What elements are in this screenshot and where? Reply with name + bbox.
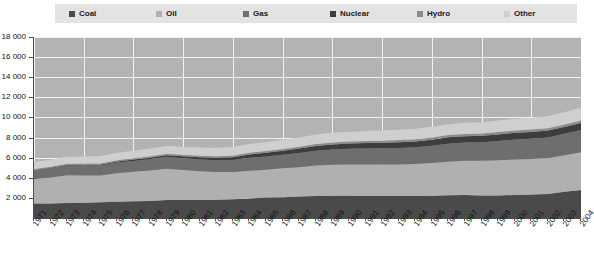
legend-item-label: Gas xyxy=(253,9,268,18)
legend-swatch-icon xyxy=(156,11,162,17)
legend-swatch-icon xyxy=(330,11,336,17)
y-tick-label: 12 000 xyxy=(2,93,26,101)
y-tick-label: 4 000 xyxy=(6,174,26,182)
legend-swatch-icon xyxy=(504,11,510,17)
y-tick-label: 16 000 xyxy=(2,53,26,61)
legend-item-label: Nuclear xyxy=(340,9,369,18)
y-tick-label: 14 000 xyxy=(2,73,26,81)
y-tick-label: 6 000 xyxy=(6,154,26,162)
legend-item-nuclear[interactable]: Nuclear xyxy=(316,9,403,18)
legend-item-other[interactable]: Other xyxy=(490,9,577,18)
plot-area xyxy=(33,37,581,218)
legend-item-label: Oil xyxy=(166,9,177,18)
legend-swatch-icon xyxy=(417,11,423,17)
stacked-area-series xyxy=(34,37,581,218)
legend-swatch-icon xyxy=(243,11,249,17)
legend-item-label: Other xyxy=(514,9,535,18)
y-tick-label: 18 000 xyxy=(2,33,26,41)
x-axis: 1971197219731974197519761977197819791980… xyxy=(33,218,580,258)
legend-swatch-icon xyxy=(69,11,75,17)
legend-item-label: Coal xyxy=(79,9,96,18)
y-tick-label: 10 000 xyxy=(2,113,26,121)
y-tick-label: 2 000 xyxy=(6,194,26,202)
legend-item-coal[interactable]: Coal xyxy=(55,9,142,18)
y-axis: 18 00016 00014 00012 00010 0008 0006 000… xyxy=(0,37,33,218)
legend-item-hydro[interactable]: Hydro xyxy=(403,9,490,18)
chart-legend: CoalOilGasNuclearHydroOther xyxy=(55,4,577,23)
chart-root: CoalOilGasNuclearHydroOther 18 00016 000… xyxy=(0,0,594,258)
legend-item-gas[interactable]: Gas xyxy=(229,9,316,18)
y-tick-label: 8 000 xyxy=(6,134,26,142)
legend-item-oil[interactable]: Oil xyxy=(142,9,229,18)
legend-item-label: Hydro xyxy=(427,9,450,18)
